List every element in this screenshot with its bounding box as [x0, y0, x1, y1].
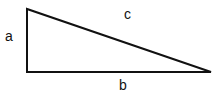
triangle-shape: [27, 9, 211, 72]
hypotenuse-c-label: c: [124, 7, 131, 21]
side-b-label: b: [119, 78, 127, 92]
right-triangle: [0, 0, 222, 94]
side-a-label: a: [5, 29, 13, 43]
